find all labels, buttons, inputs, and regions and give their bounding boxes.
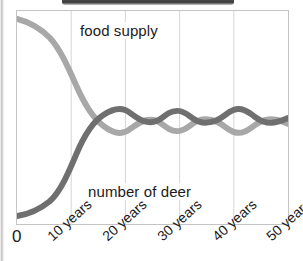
plot-area: food supply number of deer xyxy=(16,10,289,225)
x-axis-origin-label: 0 xyxy=(12,227,21,247)
page-left-edge xyxy=(0,0,4,261)
top-dark-bar xyxy=(62,0,234,5)
series-label-food-supply: food supply xyxy=(77,22,161,39)
chart-screenshot: food supply number of deer 0 10 years 20… xyxy=(0,0,303,261)
